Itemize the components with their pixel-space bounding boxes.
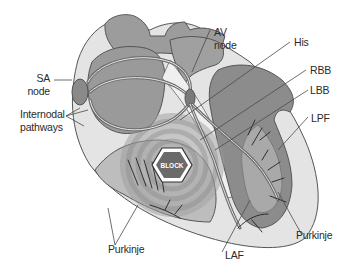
label-av-node: AV node bbox=[214, 27, 237, 51]
label-internodal-line1: Internodal bbox=[20, 109, 65, 120]
label-sa-node: SA node bbox=[24, 73, 50, 97]
label-purkinje-left: Purkinje bbox=[108, 244, 144, 255]
label-purkinje-right: Purkinje bbox=[296, 230, 332, 241]
label-av-line1: AV bbox=[214, 27, 237, 38]
block-badge-text: BLOCK bbox=[160, 162, 183, 169]
label-internodal-pathways: Internodal pathways bbox=[20, 109, 65, 133]
label-rbb: RBB bbox=[310, 65, 331, 76]
label-sa-line1: SA bbox=[24, 73, 50, 84]
label-laf: LAF bbox=[225, 250, 244, 261]
sa-node bbox=[72, 79, 88, 105]
label-av-line2: node bbox=[214, 40, 237, 51]
label-internodal-line2: pathways bbox=[20, 122, 65, 133]
label-lpf: LPF bbox=[311, 113, 330, 124]
label-sa-line2: node bbox=[24, 86, 50, 97]
label-his: His bbox=[294, 37, 309, 48]
label-lbb: LBB bbox=[310, 85, 329, 96]
